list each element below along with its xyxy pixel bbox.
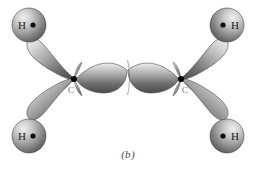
chemistry-figure: H H H H C C (b) bbox=[0, 0, 256, 174]
nucleus-dot-icon-h1 bbox=[30, 22, 35, 27]
hydrogen-sphere-top-right bbox=[210, 8, 244, 42]
nucleus-dot-icon-h3 bbox=[30, 133, 35, 138]
nucleus-dot-icon-h2 bbox=[220, 22, 225, 27]
nucleus-dot-icon-c2 bbox=[178, 76, 184, 82]
nucleus-dot-icon-h4 bbox=[220, 133, 225, 138]
hydrogen-sphere-top-left bbox=[12, 8, 46, 42]
nucleus-dot-icon-c1 bbox=[71, 76, 77, 82]
figure-caption: (b) bbox=[0, 148, 256, 160]
